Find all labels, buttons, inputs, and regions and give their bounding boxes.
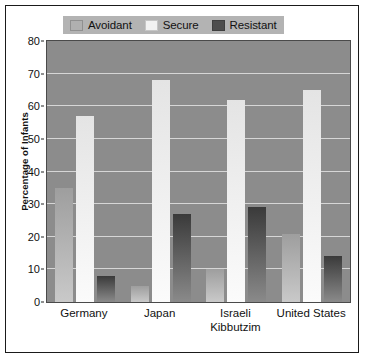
- x-label-israeli-kibbutzim: IsraeliKibbutzim: [198, 306, 274, 334]
- bar-resistant-united-states: [324, 256, 342, 302]
- y-tick-mark-30: [41, 204, 44, 205]
- bar-secure-japan: [152, 80, 170, 302]
- legend-item-resistant[interactable]: Resistant: [212, 19, 277, 31]
- x-label-united-states: United States: [273, 306, 349, 320]
- gridline-70: [47, 73, 350, 74]
- legend-label-secure: Secure: [163, 19, 199, 31]
- y-tick-mark-20: [41, 236, 44, 237]
- legend-label-resistant: Resistant: [230, 19, 277, 31]
- y-tick-label-50: 50: [6, 133, 40, 145]
- legend-swatch-avoidant: [70, 20, 83, 31]
- y-tick-mark-50: [41, 138, 44, 139]
- y-tick-label-0: 0: [6, 296, 40, 308]
- y-tick-label-70: 70: [6, 68, 40, 80]
- legend-swatch-resistant: [212, 20, 225, 31]
- bar-avoidant-japan: [131, 286, 149, 302]
- bar-resistant-germany: [97, 276, 115, 302]
- y-tick-label-40: 40: [6, 166, 40, 178]
- chart-figure: Avoidant Secure Resistant Percentage of …: [5, 5, 359, 353]
- bar-secure-germany: [76, 116, 94, 302]
- y-tick-label-10: 10: [6, 263, 40, 275]
- y-tick-label-60: 60: [6, 100, 40, 112]
- y-tick-label-80: 80: [6, 35, 40, 47]
- bar-avoidant-germany: [55, 188, 73, 302]
- y-tick-mark-0: [41, 302, 44, 303]
- bar-resistant-israeli-kibbutzim: [248, 207, 266, 302]
- legend-item-avoidant[interactable]: Avoidant: [70, 19, 132, 31]
- y-tick-mark-40: [41, 171, 44, 172]
- gridline-80: [47, 40, 350, 41]
- x-axis-labels: GermanyJapanIsraeliKibbutzimUnited State…: [46, 306, 351, 350]
- bar-resistant-japan: [173, 214, 191, 302]
- plot-area: [46, 40, 351, 303]
- legend-label-avoidant: Avoidant: [88, 19, 132, 31]
- x-label-japan: Japan: [122, 306, 198, 320]
- bar-avoidant-israeli-kibbutzim: [206, 269, 224, 302]
- bar-secure-israeli-kibbutzim: [227, 100, 245, 302]
- y-tick-mark-10: [41, 269, 44, 270]
- chart-legend: Avoidant Secure Resistant: [63, 16, 284, 34]
- x-label-germany: Germany: [46, 306, 122, 320]
- legend-item-secure[interactable]: Secure: [145, 19, 199, 31]
- y-tick-label-30: 30: [6, 198, 40, 210]
- bar-secure-united-states: [303, 90, 321, 302]
- y-tick-mark-80: [41, 41, 44, 42]
- legend-swatch-secure: [145, 20, 158, 31]
- y-tick-mark-70: [41, 73, 44, 74]
- bar-avoidant-united-states: [282, 234, 300, 303]
- y-tick-label-20: 20: [6, 231, 40, 243]
- y-tick-mark-60: [41, 106, 44, 107]
- y-axis-ticks: 01020304050607080: [6, 40, 44, 303]
